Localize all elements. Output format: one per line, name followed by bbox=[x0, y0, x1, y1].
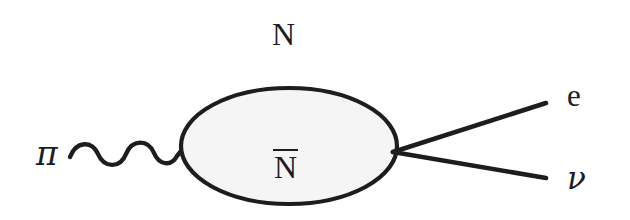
antinucleon-overbar-glyph: N bbox=[274, 149, 297, 183]
nucleon-label-top: N bbox=[272, 18, 295, 50]
nucleon-antinucleon-blob-shape bbox=[181, 88, 397, 204]
neutrino-line-stroke bbox=[393, 152, 546, 178]
outgoing-neutrino-label: ν bbox=[567, 163, 586, 194]
pion-wavy-propagator-line bbox=[70, 143, 182, 165]
electron-line-stroke bbox=[393, 103, 546, 152]
diagram-canvas bbox=[0, 0, 630, 220]
antinucleon-label-inside: N bbox=[274, 149, 297, 183]
feynman-diagram-figure: π N N e ν bbox=[0, 0, 630, 220]
incoming-pion-label: π bbox=[36, 137, 58, 170]
outgoing-electron-label: e bbox=[567, 80, 581, 111]
